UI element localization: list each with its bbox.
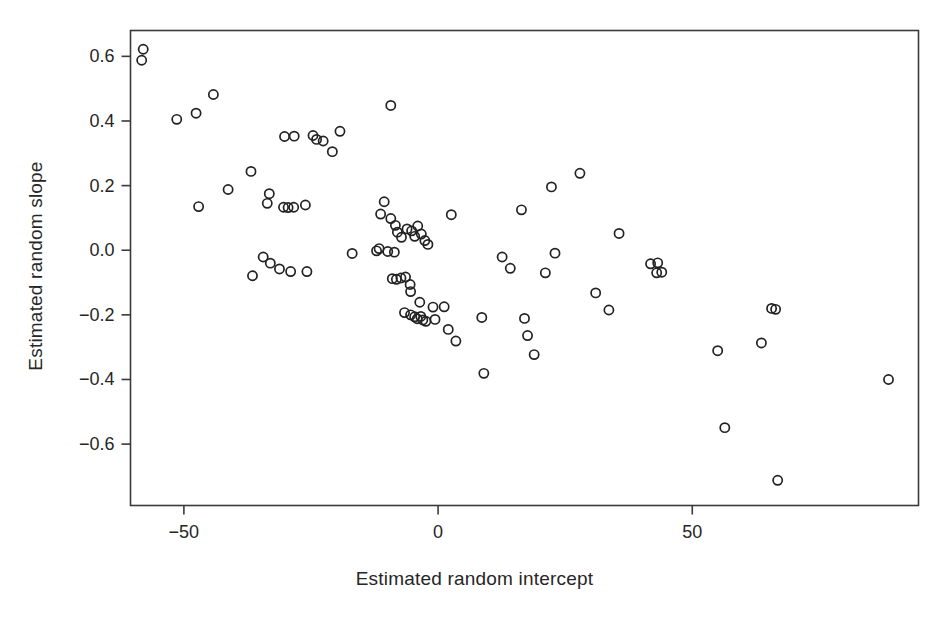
data-point (884, 375, 893, 384)
scatter-plot-figure: −50050 0.60.40.20.0−0.2−0.4−0.6 Estimate… (0, 0, 949, 619)
data-point (302, 267, 311, 276)
data-point (289, 203, 298, 212)
data-point (506, 264, 515, 273)
y-tick-label: −0.6 (79, 434, 115, 455)
data-point (301, 200, 310, 209)
data-point (265, 189, 274, 198)
data-point (523, 331, 532, 340)
data-point (400, 308, 409, 317)
data-point (137, 56, 146, 65)
data-point (415, 298, 424, 307)
y-tick-label: 0.2 (89, 175, 114, 196)
data-point (246, 167, 255, 176)
data-point (286, 267, 295, 276)
y-tick-label: 0.4 (89, 110, 114, 131)
y-tick-label: 0.6 (89, 46, 114, 67)
data-point (224, 185, 233, 194)
data-point (530, 350, 539, 359)
y-tick-label: −0.2 (79, 304, 115, 325)
x-axis-ticks (184, 506, 692, 515)
x-axis-label: Estimated random intercept (0, 568, 949, 590)
data-point (713, 346, 722, 355)
data-point (275, 264, 284, 273)
data-point (209, 90, 218, 99)
x-tick-label: −50 (169, 522, 200, 543)
data-point (575, 169, 584, 178)
data-point (386, 101, 395, 110)
plot-frame (131, 31, 919, 506)
data-point (430, 315, 439, 324)
data-point (390, 248, 399, 257)
data-point (547, 182, 556, 191)
x-tick-label: 50 (682, 522, 702, 543)
data-point (517, 205, 526, 214)
data-point (614, 229, 623, 238)
data-point (444, 325, 453, 334)
data-point (290, 132, 299, 141)
y-axis-label-wrapper: Estimated random slope (25, 106, 47, 426)
data-point (451, 336, 460, 345)
data-point (191, 109, 200, 118)
data-point (604, 305, 613, 314)
data-point (372, 246, 381, 255)
data-point (280, 132, 289, 141)
data-point (757, 338, 766, 347)
y-axis-ticks (122, 56, 131, 444)
y-tick-label: 0.0 (89, 240, 114, 261)
data-point (720, 423, 729, 432)
data-point (541, 268, 550, 277)
data-point (328, 147, 337, 156)
data-point (248, 271, 257, 280)
y-axis-label: Estimated random slope (25, 161, 46, 370)
data-point (376, 209, 385, 218)
data-point (194, 202, 203, 211)
data-point (520, 314, 529, 323)
data-point (172, 115, 181, 124)
data-point (335, 127, 344, 136)
data-point (440, 302, 449, 311)
data-point (591, 288, 600, 297)
data-point (139, 45, 148, 54)
data-point (263, 199, 272, 208)
x-tick-label: 0 (433, 522, 443, 543)
data-point (266, 259, 275, 268)
data-point (447, 210, 456, 219)
y-tick-label: −0.4 (79, 369, 115, 390)
data-point (477, 313, 486, 322)
data-point (348, 249, 357, 258)
data-point (498, 252, 507, 261)
plot-canvas (0, 0, 949, 619)
data-point (428, 303, 437, 312)
data-point (550, 249, 559, 258)
data-points (137, 45, 893, 485)
data-point (773, 476, 782, 485)
data-point (380, 197, 389, 206)
data-point (479, 369, 488, 378)
